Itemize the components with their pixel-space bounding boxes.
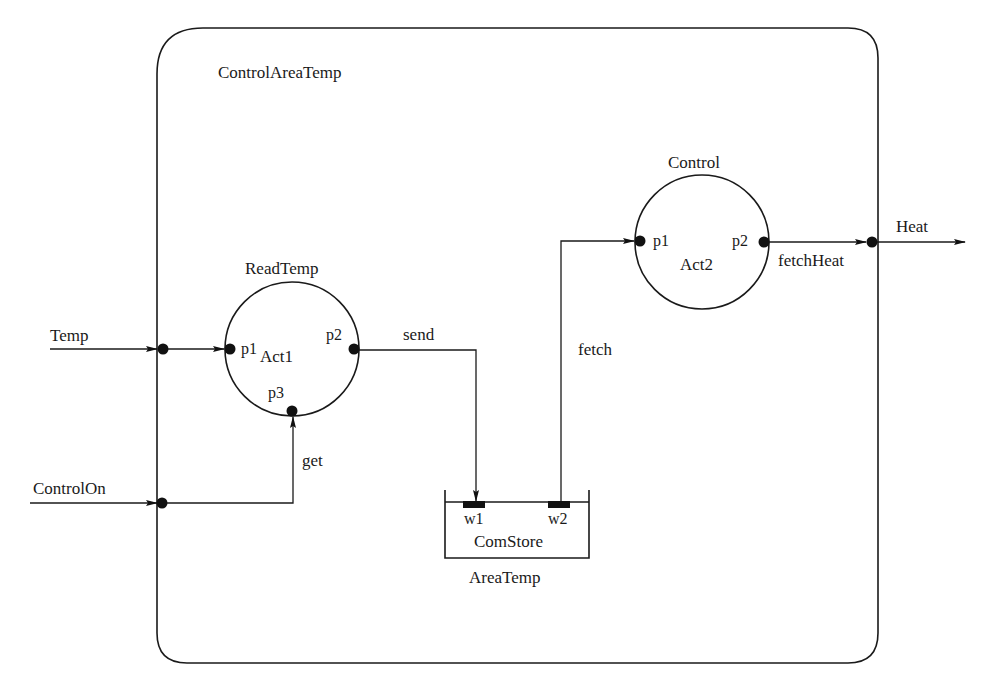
- port-store-w1[interactable]: [463, 501, 485, 508]
- activity-control[interactable]: Control Act2 p1 p2: [635, 153, 770, 309]
- input-temp: Temp: [50, 326, 224, 355]
- port-store-w1-label: w1: [464, 510, 484, 527]
- connection-send: send: [359, 325, 476, 501]
- activity-readtemp[interactable]: ReadTemp Act1 p1 p2 p3: [225, 259, 360, 417]
- diagram-canvas: ControlAreaTemp Temp ControlOn get ReadT…: [0, 0, 998, 692]
- boundary-port-temp[interactable]: [158, 344, 169, 355]
- input-control-on: ControlOn get: [30, 417, 323, 509]
- store-instance: ComStore: [474, 532, 543, 551]
- activity-control-name: Control: [668, 153, 720, 172]
- connection-fetchheat-label: fetchHeat: [778, 251, 844, 270]
- port-readtemp-p1-label: p1: [241, 340, 257, 358]
- port-control-p1[interactable]: [635, 236, 646, 247]
- port-readtemp-p1[interactable]: [225, 344, 236, 355]
- boundary-port-heat[interactable]: [867, 237, 878, 248]
- output-heat-label: Heat: [896, 217, 928, 236]
- port-readtemp-p3[interactable]: [287, 406, 298, 417]
- composite-title: ControlAreaTemp: [218, 63, 341, 82]
- activity-readtemp-name: ReadTemp: [245, 259, 318, 278]
- connection-get-label: get: [302, 451, 323, 470]
- connection-fetch-label: fetch: [578, 340, 612, 359]
- store-areatemp[interactable]: w1 w2 ComStore AreaTemp: [445, 490, 589, 587]
- port-readtemp-p2[interactable]: [349, 344, 360, 355]
- store-name: AreaTemp: [469, 568, 541, 587]
- port-control-p1-label: p1: [653, 232, 669, 250]
- input-control-on-label: ControlOn: [33, 479, 106, 498]
- activity-control-instance: Act2: [680, 255, 713, 274]
- connection-send-label: send: [403, 325, 435, 344]
- port-store-w2[interactable]: [548, 501, 570, 508]
- boundary-port-control-on[interactable]: [157, 498, 168, 509]
- port-store-w2-label: w2: [548, 510, 568, 527]
- port-control-p2[interactable]: [759, 237, 770, 248]
- port-readtemp-p3-label: p3: [268, 384, 284, 402]
- input-temp-label: Temp: [50, 326, 88, 345]
- port-control-p2-label: p2: [732, 232, 748, 250]
- connection-fetch: fetch: [561, 241, 634, 501]
- port-readtemp-p2-label: p2: [326, 326, 342, 344]
- output-heat: fetchHeat Heat: [769, 217, 965, 270]
- activity-readtemp-instance: Act1: [260, 347, 293, 366]
